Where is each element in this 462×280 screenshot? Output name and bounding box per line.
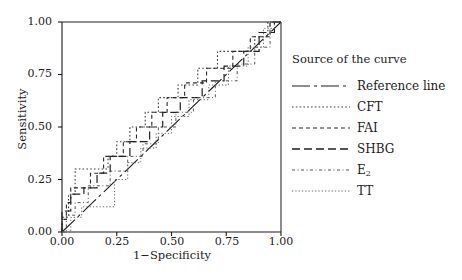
- y-axis-title: Sensitivity: [15, 79, 29, 159]
- y-tick-label-1.00: 1.00: [16, 16, 52, 28]
- legend-label-e2: E2: [357, 163, 371, 177]
- legend-swatch-shbg: [292, 143, 350, 155]
- legend-item-shbg[interactable]: SHBG: [292, 138, 457, 159]
- legend-item-cft[interactable]: CFT: [292, 96, 457, 117]
- legend-swatch-reference-line: [292, 80, 350, 92]
- x-axis-title: 1−Specificity: [112, 248, 232, 262]
- legend-item-tt[interactable]: TT: [292, 180, 457, 201]
- legend-item-reference-line[interactable]: Reference line: [292, 75, 457, 96]
- legend-label-reference-line: Reference line: [357, 79, 445, 93]
- legend-label-cft: CFT: [357, 100, 383, 114]
- legend-label-tt: TT: [357, 184, 373, 198]
- legend-swatch-fai: [292, 122, 350, 134]
- legend-swatch-tt: [292, 185, 350, 197]
- legend: Source of the curve Reference lineCFTFAI…: [292, 52, 457, 201]
- legend-item-fai[interactable]: FAI: [292, 117, 457, 138]
- legend-swatch-e2: [292, 164, 350, 176]
- x-tick-label-0.25: 0.25: [97, 236, 137, 248]
- x-tick-label-0.50: 0.50: [152, 236, 192, 248]
- legend-item-e2[interactable]: E2: [292, 159, 457, 180]
- legend-title: Source of the curve: [292, 52, 457, 66]
- legend-rows: Reference lineCFTFAISHBGE2TT: [292, 75, 457, 201]
- legend-label-fai: FAI: [357, 121, 378, 135]
- legend-swatch-cft: [292, 101, 350, 113]
- legend-label-shbg: SHBG: [357, 142, 394, 156]
- x-tick-label-0.00: 0.00: [42, 236, 82, 248]
- curve-layer: [62, 22, 281, 232]
- roc-curve-figure: 1.00 0.75 0.50 0.25 0.00 0.00 0.25 0.50 …: [0, 0, 462, 280]
- x-tick-label-1.00: 1.00: [261, 236, 301, 248]
- y-tick-label-0.25: 0.25: [16, 174, 52, 186]
- x-tick-label-0.75: 0.75: [207, 236, 247, 248]
